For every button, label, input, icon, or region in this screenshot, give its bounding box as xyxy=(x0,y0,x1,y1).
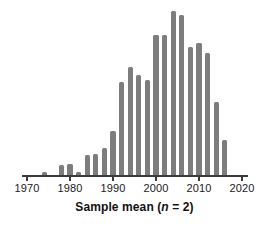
histogram-bar xyxy=(119,82,124,175)
x-axis-title-variable: n xyxy=(161,200,168,214)
histogram-bar xyxy=(145,80,150,175)
x-axis-title: Sample mean (n = 2) xyxy=(0,200,269,214)
histogram-bar xyxy=(85,155,90,175)
histogram-bar xyxy=(136,75,141,175)
x-axis-tick xyxy=(26,176,27,181)
histogram-bar xyxy=(205,53,210,175)
histogram-bar xyxy=(222,140,227,175)
histogram-bar xyxy=(59,165,64,175)
x-axis-tick-label: 1990 xyxy=(91,182,135,194)
histogram-bar xyxy=(214,102,219,175)
plot-area xyxy=(0,0,269,176)
histogram-figure: 197019801990200020102020 Sample mean (n … xyxy=(0,0,269,226)
histogram-bar xyxy=(179,15,184,175)
x-axis-tick xyxy=(241,176,242,181)
histogram-bar xyxy=(128,67,133,175)
x-axis-line xyxy=(22,175,248,177)
x-axis-tick-label: 1970 xyxy=(5,182,49,194)
x-axis-tick-label: 2020 xyxy=(220,182,264,194)
x-axis-title-lead: Sample mean ( xyxy=(75,200,161,214)
x-axis-tick xyxy=(198,176,199,181)
x-axis-title-trail: = 2) xyxy=(169,200,194,214)
x-axis-tick-label: 2010 xyxy=(177,182,221,194)
x-axis-tick xyxy=(155,176,156,181)
x-axis-tick xyxy=(69,176,70,181)
histogram-bar xyxy=(110,131,115,175)
histogram-bar xyxy=(196,43,201,175)
x-axis-tick-label: 1980 xyxy=(48,182,92,194)
histogram-bar xyxy=(162,35,167,175)
histogram-bar xyxy=(153,35,158,175)
x-axis-tick xyxy=(112,176,113,181)
histogram-bar xyxy=(93,154,98,175)
histogram-bar xyxy=(171,11,176,175)
histogram-bar xyxy=(102,148,107,175)
x-axis-tick-label: 2000 xyxy=(134,182,178,194)
histogram-bar xyxy=(188,47,193,175)
histogram-bar xyxy=(67,164,72,175)
